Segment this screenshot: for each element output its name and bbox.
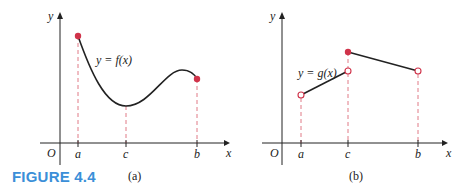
point-c-open (345, 68, 351, 74)
figure-4-4: y x O a c b y = f(x) (a) y x O (0, 0, 466, 196)
panel-a: y x O a c b y = f(x) (a) (40, 9, 232, 183)
tick-label-a: a (75, 147, 81, 161)
point-a-closed (75, 33, 81, 39)
point-a-open (298, 92, 304, 98)
origin-label: O (270, 146, 279, 160)
tick-label-b: b (415, 147, 421, 161)
tick-label-c: c (123, 147, 129, 161)
point-c-closed (345, 49, 351, 55)
origin-label: O (47, 146, 56, 160)
figure-caption: FIGURE 4.4 (12, 168, 96, 185)
panel-label-a: (a) (128, 169, 141, 183)
tick-label-a: a (298, 147, 304, 161)
tick-label-c: c (345, 147, 351, 161)
segment-right (348, 52, 418, 71)
curve-f (78, 36, 197, 106)
y-axis-arrow-icon (279, 12, 285, 19)
y-axis-label: y (47, 9, 54, 23)
y-axis-label: y (269, 9, 276, 23)
y-axis-arrow-icon (57, 12, 63, 19)
function-label-g: y = g(x) (297, 66, 337, 80)
x-axis-label: x (445, 146, 452, 160)
point-b-open (415, 68, 421, 74)
panel-b: y x O a c b y = g(x) (b) (262, 9, 452, 183)
point-b-closed (194, 76, 200, 82)
tick-label-b: b (194, 147, 200, 161)
panel-label-b: (b) (349, 169, 363, 183)
x-axis-label: x (225, 146, 232, 160)
function-label-f: y = f(x) (95, 53, 132, 67)
